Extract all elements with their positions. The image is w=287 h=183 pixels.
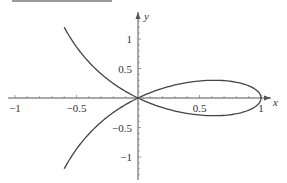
axes [8,12,271,180]
x-tick-label: −1 [9,102,21,114]
y-axis-arrow-icon [136,12,141,19]
y-tick-label: 1 [127,33,133,45]
y-tick-label: 0.5 [118,63,132,75]
x-axis-arrow-icon [264,96,271,101]
x-tick-label: 0.5 [193,102,207,114]
x-axis-label: x [272,96,278,108]
y-axis-label: y [143,10,149,22]
y-tick-label: −0.5 [112,122,132,134]
strophoid-plot: −1−0.50.5110.5−0.5−1 x y [0,0,287,183]
y-tick-label: −1 [120,151,132,163]
x-tick-label: −0.5 [67,102,87,114]
